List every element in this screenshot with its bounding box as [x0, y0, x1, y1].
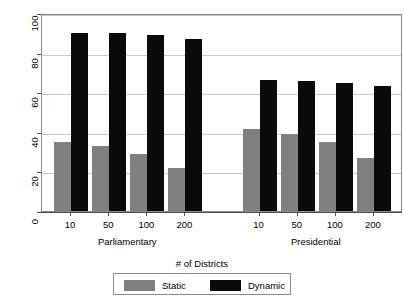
x-axis-group-label: Presidential [256, 236, 376, 247]
plot-area [41, 14, 402, 212]
bar-chart: Nationalization Score 020406080100 10501… [0, 0, 404, 301]
x-axis-tick [373, 212, 374, 216]
x-axis-tick [184, 212, 185, 216]
y-axis-tick-label: 20 [29, 172, 40, 192]
y-axis-tick-label: 40 [29, 132, 40, 152]
x-axis-tick [335, 212, 336, 216]
bar-dynamic-50-parliamentary [109, 33, 126, 211]
legend-item-static: Static [124, 278, 186, 292]
x-axis-line [41, 212, 402, 213]
x-axis-tick [259, 212, 260, 216]
x-axis-title: # of Districts [0, 258, 404, 269]
bar-static-10-parliamentary [54, 142, 71, 211]
bar-dynamic-200-presidential [374, 86, 391, 211]
y-axis-tick-label: 60 [29, 93, 40, 113]
x-axis-group-label: Parliamentary [67, 236, 187, 247]
x-axis-tick-label: 100 [315, 219, 355, 230]
bars-layer [42, 15, 401, 211]
bar-dynamic-10-parliamentary [71, 33, 88, 211]
x-axis-tick-label: 200 [353, 219, 393, 230]
x-axis-tick-label: 100 [126, 219, 166, 230]
bar-static-50-presidential [281, 134, 298, 211]
bar-dynamic-10-presidential [260, 80, 277, 211]
x-axis-tick [146, 212, 147, 216]
x-axis-tick [297, 212, 298, 216]
bar-static-200-presidential [357, 158, 374, 211]
legend-item-dynamic: Dynamic [210, 278, 285, 292]
bar-static-100-presidential [319, 142, 336, 211]
bar-dynamic-50-presidential [298, 81, 315, 211]
y-axis-tick-label: 80 [29, 53, 40, 73]
bar-static-200-parliamentary [168, 168, 185, 211]
legend-swatch-dynamic [210, 280, 241, 291]
x-axis-tick-label: 50 [88, 219, 128, 230]
legend-label-dynamic: Dynamic [248, 280, 285, 291]
bar-dynamic-100-presidential [336, 83, 353, 211]
x-axis-tick-label: 10 [50, 219, 90, 230]
y-axis: 020406080100 [0, 0, 41, 301]
x-axis-tick-label: 10 [239, 219, 279, 230]
bar-static-10-presidential [243, 129, 260, 211]
legend-label-static: Static [162, 280, 186, 291]
y-axis-tick-label: 0 [29, 212, 40, 232]
x-axis-tick [70, 212, 71, 216]
x-axis-tick-label: 200 [164, 219, 204, 230]
x-axis-tick [108, 212, 109, 216]
bar-dynamic-100-parliamentary [147, 35, 164, 211]
x-axis-tick-label: 50 [277, 219, 317, 230]
bar-static-50-parliamentary [92, 146, 109, 211]
legend: StaticDynamic [113, 273, 291, 295]
y-axis-tick-label: 100 [29, 14, 40, 34]
bar-static-100-parliamentary [130, 154, 147, 211]
legend-swatch-static [124, 280, 155, 291]
bar-dynamic-200-parliamentary [185, 39, 202, 211]
